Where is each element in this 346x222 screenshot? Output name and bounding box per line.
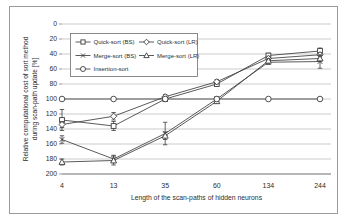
- y-tick-label: 0: [53, 20, 57, 27]
- legend-label: Merge-sort (LR): [157, 53, 199, 59]
- x-tick-labels: 4133560134244: [60, 182, 326, 189]
- y-tick-label: 60: [49, 65, 57, 72]
- legend-label: Merge-sort (BS): [94, 53, 137, 59]
- x-tick-label: 4: [60, 182, 64, 189]
- y-tick-label: 180: [46, 155, 58, 162]
- y-tick-label: 120: [46, 110, 58, 117]
- series-insertion-sort: [59, 96, 323, 102]
- y-tick-label: 80: [49, 80, 57, 87]
- line-chart: 0204060801001201401601802004133560134244…: [0, 0, 346, 222]
- y-tick-label: 200: [46, 170, 58, 177]
- y-tick-labels: 020406080100120140160180200: [46, 20, 58, 177]
- legend-item-insertion-sort: Insertion-sort: [76, 66, 129, 72]
- x-axis-title: Length of the scan-paths of hidden neuro…: [131, 194, 263, 202]
- y-tick-label: 160: [46, 140, 58, 147]
- y-tick-label: 40: [49, 50, 57, 57]
- x-tick-label: 35: [161, 182, 169, 189]
- x-tick-label: 244: [314, 182, 326, 189]
- marker-square: [81, 40, 85, 44]
- x-tick-label: 60: [213, 182, 221, 189]
- y-axis-title-line1: Relative computational cost of sort meth…: [22, 36, 30, 161]
- y-axis-title-line2: during scan-path update [%]: [31, 58, 39, 141]
- x-tick-label: 13: [110, 182, 118, 189]
- legend: Quick-sort (BS)Quick-sort (LR)Merge-sort…: [71, 34, 200, 77]
- marker-circle: [266, 96, 272, 102]
- x-tick-label: 134: [263, 182, 275, 189]
- marker-circle: [81, 67, 86, 72]
- marker-square: [111, 124, 116, 129]
- marker-circle: [111, 96, 117, 102]
- y-tick-label: 100: [46, 95, 58, 102]
- y-tick-label: 140: [46, 125, 58, 132]
- legend-label: Quick-sort (LR): [157, 39, 198, 45]
- y-tick-label: 20: [49, 35, 57, 42]
- marker-circle: [317, 96, 323, 102]
- legend-item-quick-sort-bs: Quick-sort (BS): [76, 39, 135, 45]
- marker-circle: [162, 96, 168, 102]
- legend-label: Insertion-sort: [94, 66, 129, 72]
- legend-label: Quick-sort (BS): [94, 39, 135, 45]
- scanned-figure: 0204060801001201401601802004133560134244…: [0, 0, 346, 222]
- marker-circle: [59, 96, 65, 102]
- marker-circle: [214, 96, 220, 102]
- legend-item-merge-sort-bs: Merge-sort (BS): [76, 53, 137, 59]
